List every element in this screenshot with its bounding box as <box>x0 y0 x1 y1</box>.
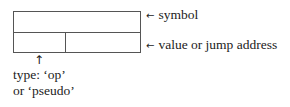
left-arrow-icon: ← <box>146 10 154 21</box>
value-label: ←value or jump address <box>146 38 277 53</box>
type-label-line1: type: ‘op’ <box>13 68 66 82</box>
row-divider <box>14 32 140 33</box>
type-label-line2: or ‘pseudo’ <box>13 84 75 98</box>
symbol-label: ←symbol <box>146 8 198 23</box>
up-arrow-icon: ↑ <box>34 54 44 66</box>
left-arrow-icon: ← <box>146 40 154 51</box>
symbol-table-entry-box <box>13 11 141 53</box>
value-label-text: value or jump address <box>158 37 277 52</box>
symbol-label-text: symbol <box>158 7 198 22</box>
column-divider <box>65 33 66 52</box>
